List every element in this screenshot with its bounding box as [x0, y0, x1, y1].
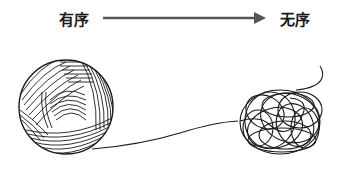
- yarn-strand: [92, 121, 238, 149]
- arrow-right-icon: [103, 12, 266, 24]
- order-to-disorder-illustration: [0, 0, 362, 173]
- tangled-yarn-icon: [240, 66, 327, 155]
- yarn-ball-icon: [19, 58, 113, 156]
